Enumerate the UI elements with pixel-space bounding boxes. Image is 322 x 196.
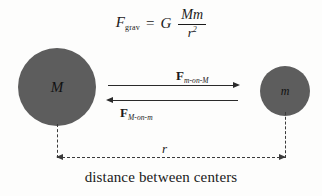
force-subscript-M-on-m: M-on-m	[128, 113, 153, 122]
equation-equals-sign: =	[144, 16, 156, 31]
equation-denominator-exponent: 2	[193, 25, 197, 34]
equation-denominator: r2	[185, 25, 200, 40]
dashed-guide-right	[285, 112, 286, 158]
large-mass-circle: M	[18, 48, 96, 126]
distance-arrow-left-head-icon	[56, 154, 63, 160]
force-symbol-m-on-M: F	[176, 68, 184, 83]
equation-fraction: Mm r2	[178, 8, 206, 40]
force-arrow-left-head-icon	[106, 97, 113, 103]
force-arrow-right-shaft	[108, 85, 234, 86]
distance-symbol-label: r	[158, 142, 171, 155]
force-label-M-on-m: FM-on-m	[120, 104, 153, 122]
force-label-m-on-M: Fm-on-M	[176, 67, 209, 85]
figure-caption: distance between centers	[0, 170, 322, 185]
equation-numerator: Mm	[178, 8, 206, 24]
distance-dashed-line	[57, 157, 285, 158]
gravitation-equation: Fgrav = G Mm r2	[0, 8, 322, 40]
force-arrow-right-head-icon	[233, 82, 240, 88]
small-mass-label: m	[281, 85, 290, 97]
dashed-guide-left	[57, 124, 58, 158]
distance-arrow-right-head-icon	[279, 154, 286, 160]
small-mass-circle: m	[260, 66, 310, 116]
gravitation-figure: Fgrav = G Mm r2 M m Fm-on-M FM-on-m r di…	[0, 0, 322, 196]
equation-inline: Fgrav = G Mm r2	[116, 8, 206, 40]
equation-lhs: Fgrav	[116, 15, 140, 32]
equation-force-subscript: grav	[125, 23, 140, 32]
force-subscript-m-on-M: m-on-M	[184, 76, 209, 85]
force-symbol-M-on-m: F	[120, 105, 128, 120]
equation-force-symbol: F	[116, 14, 125, 30]
large-mass-label: M	[51, 80, 64, 95]
equation-gravitational-constant: G	[161, 16, 172, 31]
force-arrow-left-shaft	[112, 100, 238, 101]
